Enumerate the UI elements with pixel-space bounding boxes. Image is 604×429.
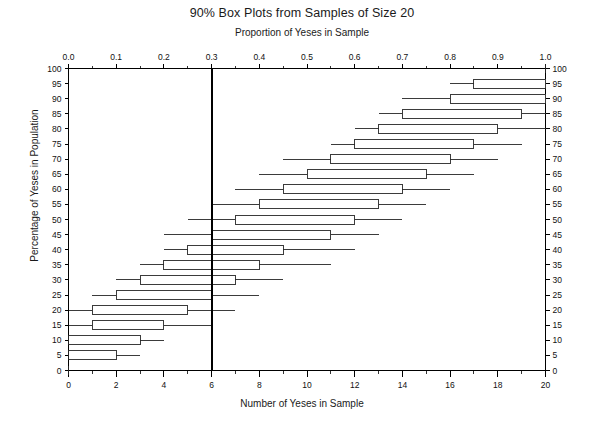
box-iqr bbox=[92, 306, 187, 315]
box-iqr bbox=[92, 321, 164, 330]
box-iqr bbox=[116, 291, 211, 300]
box-iqr bbox=[474, 79, 546, 88]
left-axis-tick-label: 75 bbox=[52, 139, 62, 149]
box-iqr bbox=[379, 124, 498, 133]
top-axis-tick-label: 0.1 bbox=[110, 52, 122, 62]
bottom-axis-tick-label: 18 bbox=[493, 380, 503, 390]
top-axis-tick-label: 0.4 bbox=[253, 52, 265, 62]
top-axis-tick-label: 0.0 bbox=[63, 52, 75, 62]
right-axis-tick-label: 90 bbox=[553, 94, 563, 104]
box-plot-row bbox=[355, 124, 546, 133]
box-plot-row bbox=[379, 109, 546, 118]
box-iqr bbox=[212, 230, 331, 239]
right-axis-tick-label: 35 bbox=[553, 260, 563, 270]
box-plot-row bbox=[116, 275, 283, 284]
left-axis-tick-label: 85 bbox=[52, 109, 62, 119]
left-axis-tick-label: 5 bbox=[57, 350, 62, 360]
top-axis-tick-label: 0.8 bbox=[444, 52, 456, 62]
bottom-axis-tick-label: 0 bbox=[66, 380, 71, 390]
box-iqr bbox=[283, 185, 402, 194]
left-axis-tick-label: 50 bbox=[52, 215, 62, 225]
left-axis-tick-label: 45 bbox=[52, 230, 62, 240]
box-iqr bbox=[402, 109, 521, 118]
right-axis-tick-label: 75 bbox=[553, 139, 563, 149]
bottom-axis-tick-label: 8 bbox=[257, 380, 262, 390]
bottom-axis-tick-label: 2 bbox=[114, 380, 119, 390]
left-axis-tick-label: 100 bbox=[47, 64, 61, 74]
left-axis-tick-label: 0 bbox=[57, 366, 62, 376]
top-axis-tick-label: 0.7 bbox=[396, 52, 408, 62]
left-axis-tick-label: 40 bbox=[52, 245, 62, 255]
x-axis-label: Number of Yeses in Sample bbox=[0, 398, 604, 409]
top-axis-tick-label: 0.2 bbox=[158, 52, 170, 62]
box-iqr bbox=[188, 245, 283, 254]
right-axis-tick-label: 100 bbox=[553, 64, 567, 74]
y-axis-label: Percentage of Yeses in Population bbox=[29, 56, 40, 316]
right-axis-tick-label: 95 bbox=[553, 79, 563, 89]
left-axis-tick-label: 25 bbox=[52, 290, 62, 300]
left-axis-tick-label: 80 bbox=[52, 124, 62, 134]
bottom-axis-tick-label: 20 bbox=[541, 380, 551, 390]
right-axis-tick-label: 0 bbox=[553, 366, 558, 376]
left-axis-tick-label: 90 bbox=[52, 94, 62, 104]
right-axis-tick-label: 65 bbox=[553, 169, 563, 179]
top-axis-tick-label: 0.3 bbox=[206, 52, 218, 62]
box-iqr bbox=[355, 140, 474, 149]
left-axis-tick-label: 60 bbox=[52, 184, 62, 194]
bottom-axis-tick-label: 4 bbox=[162, 380, 167, 390]
box-plot-row bbox=[69, 336, 164, 345]
box-plot-row bbox=[140, 260, 331, 269]
top-axis-tick-label: 0.9 bbox=[492, 52, 504, 62]
bottom-axis-tick-label: 6 bbox=[209, 380, 214, 390]
box-plot-row bbox=[92, 291, 259, 300]
box-iqr bbox=[235, 215, 354, 224]
left-axis-tick-label: 70 bbox=[52, 154, 62, 164]
box-plot-row bbox=[164, 245, 355, 254]
right-axis-tick-label: 50 bbox=[553, 215, 563, 225]
box-iqr bbox=[259, 200, 378, 209]
right-axis-tick-label: 80 bbox=[553, 124, 563, 134]
bottom-axis-tick-label: 10 bbox=[302, 380, 312, 390]
right-axis-tick-label: 85 bbox=[553, 109, 563, 119]
chart-title: 90% Box Plots from Samples of Size 20 bbox=[0, 6, 604, 20]
box-plot-figure: 90% Box Plots from Samples of Size 20 Pr… bbox=[0, 0, 604, 429]
right-axis-tick-label: 45 bbox=[553, 230, 563, 240]
bottom-axis-tick-label: 16 bbox=[445, 380, 455, 390]
right-axis-tick-label: 10 bbox=[553, 335, 563, 345]
box-plot-row bbox=[212, 200, 427, 209]
right-axis-tick-label: 5 bbox=[553, 350, 558, 360]
left-axis-tick-label: 35 bbox=[52, 260, 62, 270]
box-plot-row bbox=[402, 94, 545, 103]
right-axis-tick-label: 25 bbox=[553, 290, 563, 300]
bottom-axis-tick-label: 14 bbox=[398, 380, 408, 390]
box-iqr bbox=[307, 170, 426, 179]
right-axis-tick-label: 30 bbox=[553, 275, 563, 285]
left-axis-tick-label: 30 bbox=[52, 275, 62, 285]
right-axis-tick-label: 60 bbox=[553, 184, 563, 194]
top-axis-tick-label: 0.5 bbox=[301, 52, 313, 62]
left-axis-tick-label: 20 bbox=[52, 305, 62, 315]
box-iqr bbox=[69, 336, 141, 345]
left-axis-tick-label: 55 bbox=[52, 199, 62, 209]
bottom-axis-tick-label: 12 bbox=[350, 380, 360, 390]
box-iqr bbox=[140, 275, 235, 284]
box-plot-row bbox=[188, 215, 403, 224]
right-axis-tick-label: 55 bbox=[553, 199, 563, 209]
box-iqr bbox=[69, 351, 117, 360]
right-axis-tick-label: 40 bbox=[553, 245, 563, 255]
left-axis-tick-label: 15 bbox=[52, 320, 62, 330]
box-plot-row bbox=[69, 351, 141, 360]
box-plot-row bbox=[450, 79, 545, 88]
left-axis-tick-label: 10 bbox=[52, 335, 62, 345]
top-axis-tick-label: 1.0 bbox=[540, 52, 552, 62]
box-iqr bbox=[331, 155, 450, 164]
box-plot-row bbox=[164, 230, 379, 239]
chart-subtitle: Proportion of Yeses in Sample bbox=[0, 27, 604, 38]
left-axis-tick-label: 65 bbox=[52, 169, 62, 179]
left-axis-tick-label: 95 bbox=[52, 79, 62, 89]
box-plot-row bbox=[259, 170, 474, 179]
box-iqr bbox=[450, 94, 545, 103]
box-plot-row bbox=[283, 155, 498, 164]
right-axis-tick-label: 15 bbox=[553, 320, 563, 330]
box-plot-row bbox=[235, 185, 450, 194]
